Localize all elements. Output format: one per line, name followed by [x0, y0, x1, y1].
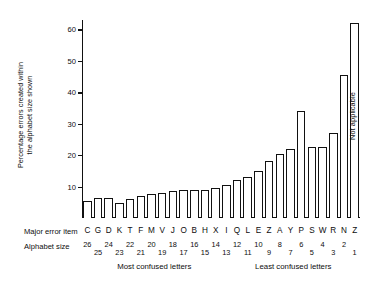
bar [308, 147, 317, 218]
y-axis-tick-label: 10 [68, 182, 76, 191]
y-axis-tick [78, 92, 83, 93]
bar [297, 111, 306, 218]
x-axis-alphabet-size-label: 13 [222, 248, 230, 257]
bar [115, 203, 124, 218]
bar [340, 75, 349, 218]
caption-least-confused: Least confused letters [255, 262, 331, 271]
bar [286, 149, 295, 218]
x-axis-letter-label: I [225, 226, 227, 235]
x-axis-letter-label: R [330, 226, 336, 235]
x-axis-alphabet-size-label: 23 [115, 248, 123, 257]
bar-series: Not applicable [82, 20, 360, 218]
bar [94, 198, 103, 218]
bar [147, 194, 156, 218]
y-axis-tick-label: 50 [68, 56, 76, 65]
x-axis-alphabet-size-label: 19 [158, 248, 166, 257]
y-axis-tick [78, 187, 83, 188]
x-axis-letter-label: X [213, 226, 218, 235]
bar [233, 180, 242, 218]
x-axis-alphabet-size-label: 3 [331, 248, 335, 257]
x-axis-alphabet-size-label: 25 [94, 248, 102, 257]
y-axis-tick-label: 30 [68, 119, 76, 128]
y-axis-title: Percentage errors created within the alp… [16, 22, 34, 208]
x-axis-letter-label: Z [352, 226, 357, 235]
y-axis-title-line-1: Percentage errors created within [16, 62, 25, 168]
bar [318, 147, 327, 218]
x-axis-alphabet-size-label: 26 [83, 240, 91, 249]
x-axis-alphabet-size-label: 20 [147, 240, 155, 249]
x-axis-letter-label: T [128, 226, 133, 235]
x-axis-letter-label: G [95, 226, 101, 235]
x-axis-alphabet-size-label: 18 [169, 240, 177, 249]
x-axis-alphabet-size-label: 15 [201, 248, 209, 257]
y-axis-tick-label: 40 [68, 88, 76, 97]
x-axis-letter-label: A [277, 226, 282, 235]
x-axis-letter-label: E [256, 226, 261, 235]
caption-most-confused: Most confused letters [117, 262, 191, 271]
x-axis-alphabet-size-label: 6 [299, 240, 303, 249]
bar [276, 154, 285, 218]
plot-area: Not applicable 102030405060 [82, 20, 360, 218]
y-axis-tick [78, 29, 83, 30]
y-axis-tick-label: 60 [68, 25, 76, 34]
x-axis-alphabet-size-label: 10 [254, 240, 262, 249]
y-axis-title-line-2: the alphabet size shown [25, 62, 34, 168]
x-axis-letter-label: N [341, 226, 347, 235]
x-axis-letter-label: B [192, 226, 197, 235]
y-axis-tick [78, 61, 83, 62]
x-axis-alphabet-size-label: 1 [353, 248, 357, 257]
y-axis-tick [78, 155, 83, 156]
bar [201, 190, 210, 218]
x-axis-letter-label: V [159, 226, 164, 235]
bar [104, 198, 113, 218]
y-axis-tick [78, 124, 83, 125]
x-axis-letter-label: O [180, 226, 186, 235]
chart-container: Percentage errors created within the alp… [0, 0, 381, 283]
x-axis-alphabet-size-label: 22 [126, 240, 134, 249]
x-axis-letter-label: P [298, 226, 303, 235]
x-axis-letter-label: W [319, 226, 327, 235]
x-axis-alphabet-size-label: 2 [342, 240, 346, 249]
row-label-alphabet-size: Alphabet size [24, 242, 70, 251]
x-axis-alphabet-size-label: 5 [310, 248, 314, 257]
x-axis-alphabet-size-label: 4 [321, 240, 325, 249]
x-axis-letter-label: F [138, 226, 143, 235]
x-axis-letter-label: M [148, 226, 155, 235]
x-axis-letter-label: C [84, 226, 90, 235]
x-axis-alphabet-size-label: 11 [244, 248, 252, 257]
x-axis-alphabet-size-label: 8 [278, 240, 282, 249]
x-axis-letter-label: J [171, 226, 175, 235]
bar [190, 190, 199, 218]
y-axis-tick-label: 20 [68, 151, 76, 160]
bar [265, 161, 274, 218]
bar [137, 196, 146, 218]
x-axis-letter-label: D [106, 226, 112, 235]
x-axis-letter-label: Z [267, 226, 272, 235]
x-axis-alphabet-size-label: 9 [267, 248, 271, 257]
bar [169, 191, 178, 218]
bar [158, 193, 167, 218]
bar [83, 201, 92, 218]
annotation-not-applicable: Not applicable [348, 92, 357, 140]
x-axis-alphabet-size-label: 16 [190, 240, 198, 249]
x-axis-alphabet-size-label: 17 [179, 248, 187, 257]
bar [243, 177, 252, 218]
x-axis-alphabet-size-label: 7 [288, 248, 292, 257]
x-axis-alphabet-size-label: 24 [105, 240, 113, 249]
bar [179, 190, 188, 218]
x-axis-letter-label: Q [234, 226, 240, 235]
bar [254, 171, 263, 218]
bar [126, 199, 135, 218]
row-label-major-error-item: Major error item [24, 227, 78, 236]
x-axis-letter-label: H [202, 226, 208, 235]
bar [222, 185, 231, 218]
x-axis-alphabet-size-label: 21 [137, 248, 145, 257]
bar [329, 133, 338, 218]
bar [211, 188, 220, 218]
x-axis-alphabet-size-label: 14 [212, 240, 220, 249]
x-axis-letter-label: Y [288, 226, 293, 235]
x-axis-letter-label: K [117, 226, 122, 235]
x-axis-letter-label: S [309, 226, 314, 235]
x-axis-letter-label: L [245, 226, 250, 235]
x-axis-alphabet-size-label: 12 [233, 240, 241, 249]
